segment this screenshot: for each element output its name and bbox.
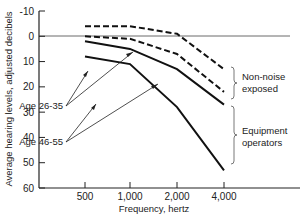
- y-tick-label: 60: [23, 183, 35, 194]
- y-tick-label: 20: [23, 81, 35, 92]
- y-tick-label: 10: [23, 56, 35, 67]
- x-axis-title: Frequency, hertz: [119, 203, 190, 214]
- x-tick-label: 1,000: [117, 191, 142, 202]
- brace-non-noise-exposed: Non-noise exposed: [231, 67, 285, 99]
- annotation-age-46-55: Age 46-55: [19, 84, 158, 147]
- x-tick-label: 2,000: [164, 191, 189, 202]
- svg-text:operators: operators: [242, 137, 282, 148]
- y-tick-label: 50: [23, 157, 35, 168]
- arrowheads: [83, 52, 158, 110]
- svg-text:Non-noise: Non-noise: [242, 71, 285, 82]
- series-line-1: [85, 26, 224, 69]
- x-tick-labels: 5001,0002,0004,000: [77, 182, 237, 202]
- data-series: [85, 26, 224, 170]
- hearing-level-chart: -100102030405060 5001,0002,0004,000 Freq…: [0, 0, 305, 218]
- svg-text:Equipment: Equipment: [242, 125, 288, 136]
- series-line-3: [85, 41, 224, 104]
- x-tick-label: 4,000: [211, 191, 236, 202]
- y-tick-label: -10: [20, 6, 35, 17]
- svg-text:Age 46-55: Age 46-55: [19, 136, 63, 147]
- x-tick-label: 500: [77, 191, 94, 202]
- svg-text:exposed: exposed: [242, 83, 278, 94]
- brace-equipment-operators: Equipment operators: [231, 106, 288, 164]
- y-tick-label: 0: [28, 31, 34, 42]
- y-axis-title: Average hearing levels, adjusted decibel…: [3, 11, 14, 186]
- svg-text:Age 26-35: Age 26-35: [19, 100, 63, 111]
